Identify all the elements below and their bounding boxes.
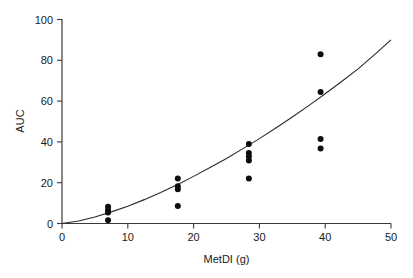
x-tick-label-50: 50 [385,231,397,243]
y-tick-label-60: 60 [41,95,53,107]
x-tick-label-20: 20 [187,231,199,243]
data-point [318,136,324,142]
x-axis-tick-labels: 0 10 20 30 40 50 [59,231,397,243]
y-axis-ticks [57,20,62,224]
data-point [318,89,324,95]
data-point [318,145,324,151]
y-tick-label-0: 0 [47,218,53,230]
data-points-group [105,51,324,223]
data-point [318,51,324,57]
data-point [246,157,252,163]
fitted-curve [62,40,391,224]
x-tick-label-0: 0 [59,231,65,243]
data-point [246,141,252,147]
data-point [105,217,111,223]
y-tick-label-80: 80 [41,54,53,66]
y-tick-label-100: 100 [35,14,53,26]
x-axis-title: MetDI (g) [204,253,250,265]
x-axis-ticks [62,224,391,229]
data-point [175,186,181,192]
x-tick-label-10: 10 [122,231,134,243]
x-tick-label-30: 30 [253,231,265,243]
y-axis-title: AUC [14,109,26,132]
scatter-plot: 0 20 40 60 80 100 0 10 20 30 40 50 MetDI… [0,0,413,278]
data-point [175,176,181,182]
y-tick-label-20: 20 [41,177,53,189]
data-point [246,176,252,182]
data-point [175,203,181,209]
data-point [105,209,111,215]
x-tick-label-40: 40 [319,231,331,243]
y-axis-tick-labels: 0 20 40 60 80 100 [35,14,53,230]
chart-figure: 0 20 40 60 80 100 0 10 20 30 40 50 MetDI… [0,0,413,278]
y-tick-label-40: 40 [41,136,53,148]
